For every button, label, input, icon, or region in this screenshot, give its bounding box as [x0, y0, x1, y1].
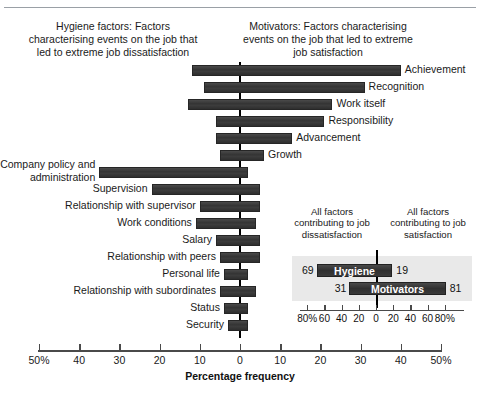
axis-tick — [401, 344, 402, 350]
inset-bar: Motivators — [349, 282, 445, 295]
inset-axis-tick-label: 40 — [405, 313, 416, 324]
axis-tick-label: 40 — [395, 354, 407, 366]
bar — [152, 184, 261, 195]
inset-zero-line — [376, 250, 378, 308]
axis-tick-label: 10 — [194, 354, 206, 366]
axis-tick — [320, 344, 321, 350]
bar — [188, 99, 333, 110]
inset-axis-tick — [410, 305, 411, 310]
bar-label: Achievement — [405, 63, 466, 76]
bar-label: Work itself — [336, 97, 385, 110]
bar — [200, 201, 260, 212]
inset-axis-tick — [359, 305, 360, 310]
bar-label: Work conditions — [117, 216, 192, 229]
axis-line — [38, 350, 442, 352]
motivators-caption: Motivators: Factors characterising event… — [236, 20, 420, 58]
hygiene-caption: Hygiene factors: Factors characterising … — [22, 20, 204, 58]
bar — [99, 167, 248, 178]
inset-axis-tick — [307, 305, 308, 310]
axis-tick-label: 10 — [274, 354, 286, 366]
inset-caption-left: All factors contributing to job dissatis… — [288, 206, 376, 240]
bar-label: Growth — [268, 148, 302, 161]
top-rule — [4, 7, 476, 8]
inset-axis-tick-label: 20 — [388, 313, 399, 324]
inset-axis-tick — [428, 305, 429, 310]
bar-label: Relationship with supervisor — [65, 199, 196, 212]
bar — [216, 133, 292, 144]
inset-axis-line — [300, 310, 464, 311]
inset-axis: 80%604020020406080% — [288, 310, 480, 334]
bar-label: Responsibility — [328, 114, 393, 127]
axis-tick — [441, 344, 442, 350]
inset-value-left: 31 — [329, 282, 346, 295]
inset-axis-tick-label: 0 — [373, 313, 379, 324]
bar-row: Supervision — [0, 181, 480, 199]
bar — [220, 150, 264, 161]
bar-label: Relationship with subordinates — [73, 284, 215, 297]
axis-tick — [160, 344, 161, 350]
inset-axis-tick-label: 60 — [319, 313, 330, 324]
axis-tick — [280, 344, 281, 350]
bar-row: Work itself — [0, 96, 480, 114]
axis-tick-label: 50% — [28, 354, 49, 366]
bar-label: Advancement — [296, 131, 360, 144]
inset-axis-tick-label: 40 — [336, 313, 347, 324]
axis-tick — [361, 344, 362, 350]
bar-row: Advancement — [0, 130, 480, 148]
inset-summary-panel: All factors contributing to job dissatis… — [288, 206, 480, 334]
chart-root: Hygiene factors: Factors characterising … — [0, 0, 480, 407]
axis-tick — [39, 344, 40, 350]
inset-axis-tick-label: 80% — [435, 313, 455, 324]
x-axis: 50%4030201001020304050% Percentage frequ… — [0, 350, 480, 390]
inset-value-right: 81 — [450, 282, 462, 295]
inset-axis-tick — [445, 305, 446, 310]
inset-axis-tick-label: 80% — [297, 313, 317, 324]
bar-row: Responsibility — [0, 113, 480, 131]
axis-tick — [200, 344, 201, 350]
inset-bar: Hygiene — [317, 264, 393, 277]
bar-label: Relationship with peers — [107, 250, 216, 263]
inset-value-right: 19 — [396, 264, 408, 277]
bar — [216, 116, 325, 127]
bar — [220, 286, 256, 297]
inset-axis-tick — [376, 305, 377, 310]
bar — [192, 65, 401, 76]
axis-tick-label: 0 — [237, 354, 243, 366]
bar — [220, 252, 260, 263]
axis-tick-label: 30 — [355, 354, 367, 366]
inset-axis-tick-label: 20 — [353, 313, 364, 324]
bar — [228, 320, 248, 331]
inset-caption-right: All factors contributing to job satisfac… — [384, 206, 472, 240]
inset-axis-tick — [342, 305, 343, 310]
bar — [224, 303, 248, 314]
bar-label: Supervision — [93, 182, 148, 195]
bar-label: Company policy and administration — [0, 158, 95, 183]
bar-label: Status — [190, 301, 220, 314]
bar-label: Recognition — [369, 80, 424, 93]
bar — [224, 269, 248, 280]
bar-label: Security — [186, 318, 224, 331]
inset-axis-tick-label: 60 — [422, 313, 433, 324]
axis-tick-label: 50% — [430, 354, 451, 366]
axis-tick-label: 20 — [154, 354, 166, 366]
bar-row: Achievement — [0, 62, 480, 80]
bar-row: Recognition — [0, 79, 480, 97]
bar-label: Salary — [182, 233, 212, 246]
bar — [196, 218, 256, 229]
inset-axis-tick — [393, 305, 394, 310]
axis-title: Percentage frequency — [0, 370, 480, 382]
bar-label: Personal life — [162, 267, 220, 280]
axis-tick-label: 40 — [73, 354, 85, 366]
axis-tick-label: 30 — [114, 354, 126, 366]
inset-axis-tick — [324, 305, 325, 310]
inset-value-left: 69 — [297, 264, 314, 277]
bar-row: Company policy and administration — [0, 164, 480, 182]
axis-tick — [79, 344, 80, 350]
axis-tick-label: 20 — [315, 354, 327, 366]
bar — [204, 82, 365, 93]
axis-tick — [240, 344, 241, 350]
bar — [216, 235, 260, 246]
axis-tick — [119, 344, 120, 350]
